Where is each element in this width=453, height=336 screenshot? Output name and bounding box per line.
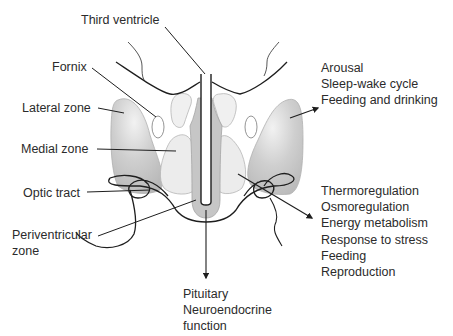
- leader-periventricular: [98, 200, 196, 236]
- label-periventricular-line-1: Periventricular: [12, 227, 92, 243]
- function-item: Response to stress: [321, 232, 428, 248]
- fornix-right: [245, 116, 257, 138]
- label-periventricular-zone: Periventricular zone: [12, 227, 92, 259]
- function-item: Arousal: [321, 60, 438, 76]
- third-ventricle: [201, 74, 211, 205]
- function-item: Pituitary: [183, 286, 272, 302]
- top-outline-left: [116, 62, 200, 94]
- function-item: function: [183, 318, 272, 334]
- lateral-functions-list: Arousal Sleep-wake cycle Feeding and dri…: [321, 60, 438, 109]
- dorsomedial-left: [171, 93, 192, 127]
- function-item: Sleep-wake cycle: [321, 76, 438, 92]
- function-item: Feeding: [321, 248, 428, 264]
- label-lateral-zone: Lateral zone: [22, 100, 91, 116]
- leader-third-ventricle: [165, 27, 205, 74]
- lateral-zone-left: [111, 99, 163, 194]
- label-fornix: Fornix: [52, 59, 87, 75]
- top-vessel-left: [128, 42, 144, 80]
- function-item: Feeding and drinking: [321, 92, 438, 108]
- top-outline-right: [212, 62, 287, 94]
- lateral-zone-right: [248, 99, 303, 194]
- fornix-left: [152, 116, 164, 138]
- function-item: Osmoregulation: [321, 199, 428, 215]
- periventricular-functions-list: Pituitary Neuroendocrine function: [183, 286, 272, 335]
- top-vessel-right: [264, 42, 279, 76]
- label-optic-tract: Optic tract: [23, 185, 80, 201]
- medial-functions-list: Thermoregulation Osmoregulation Energy m…: [321, 183, 428, 280]
- function-item: Energy metabolism: [321, 215, 428, 231]
- label-third-ventricle: Third ventricle: [81, 12, 160, 28]
- label-periventricular-line-2: zone: [12, 243, 92, 259]
- function-item: Thermoregulation: [321, 183, 428, 199]
- label-medial-zone: Medial zone: [21, 141, 88, 157]
- medial-zone-left: [160, 135, 195, 194]
- function-item: Reproduction: [321, 264, 428, 280]
- right-lower-squiggle: [270, 198, 282, 246]
- function-item: Neuroendocrine: [183, 302, 272, 318]
